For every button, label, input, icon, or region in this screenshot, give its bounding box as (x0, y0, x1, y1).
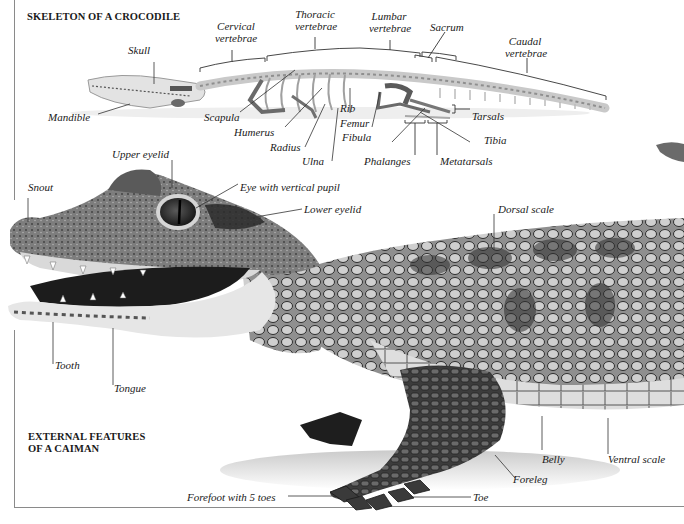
label-upper-eyelid: Upper eyelid (112, 148, 169, 160)
label-cervical-vertebrae-line2: vertebrae (210, 32, 262, 44)
label-caudal-vertebrae-line1: Caudal (500, 35, 550, 47)
label-rib: Rib (340, 102, 355, 114)
label-lower-eyelid: Lower eyelid (304, 203, 361, 215)
label-toe: Toe (473, 491, 489, 503)
label-mandible: Mandible (48, 111, 90, 123)
label-ventral-scale: Ventral scale (608, 453, 665, 465)
external-section-title-line2: OF A CAIMAN (28, 443, 99, 455)
anatomy-page: SKELETON OF A CROCODILE Skull Mandible C… (0, 0, 684, 524)
label-humerus: Humerus (234, 126, 274, 138)
skeleton-section-title: SKELETON OF A CROCODILE (27, 11, 180, 23)
label-caudal-vertebrae-line2: vertebrae (500, 47, 552, 59)
label-thoracic-vertebrae-line2: vertebrae (290, 20, 342, 32)
label-tooth: Tooth (55, 359, 80, 371)
label-foreleg: Foreleg (513, 473, 547, 485)
external-section-title-line1: EXTERNAL FEATURES (28, 431, 145, 443)
label-fibula: Fibula (342, 131, 371, 143)
label-skull: Skull (128, 44, 150, 56)
label-radius: Radius (270, 141, 301, 153)
label-phalanges: Phalanges (364, 155, 410, 167)
label-tongue: Tongue (114, 382, 146, 394)
label-eye-with-vertical-pupil: Eye with vertical pupil (240, 181, 340, 193)
label-sacrum: Sacrum (430, 21, 464, 33)
label-cervical-vertebrae-line1: Cervical (212, 20, 260, 32)
label-lumbar-vertebrae-line1: Lumbar (364, 10, 414, 22)
label-forefoot-with-5-toes: Forefoot with 5 toes (187, 491, 276, 503)
label-tarsals: Tarsals (472, 110, 504, 122)
label-thoracic-vertebrae-line1: Thoracic (290, 8, 340, 20)
label-metatarsals: Metatarsals (440, 155, 493, 167)
label-femur: Femur (340, 117, 369, 129)
caiman-body (8, 142, 684, 510)
label-belly: Belly (542, 453, 565, 465)
label-snout: Snout (28, 181, 53, 193)
illustration (0, 0, 684, 524)
label-dorsal-scale: Dorsal scale (498, 203, 554, 215)
label-lumbar-vertebrae-line2: vertebrae (364, 22, 416, 34)
label-tibia: Tibia (484, 134, 507, 146)
label-scapula: Scapula (204, 111, 239, 123)
label-ulna: Ulna (302, 155, 324, 167)
